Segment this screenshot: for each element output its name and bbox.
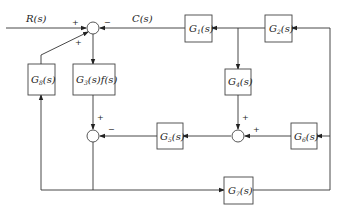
output-label: C(s) [132, 13, 153, 24]
sign-ll-top: + [97, 113, 104, 122]
right-loop-line [253, 28, 330, 190]
block-diagram: R(s) + − C(s) G1(s) G2(s) G4(s) + + G6(s… [0, 0, 347, 213]
block-g3f-label: G3(s)f(s) [76, 74, 117, 86]
block-g6-label: G6(s) [294, 131, 319, 143]
block-g5-label: G5(s) [160, 131, 185, 143]
summing-junction-top [87, 22, 99, 34]
block-g2-label: G2(s) [269, 23, 294, 35]
block-g4-label: G4(s) [228, 76, 253, 88]
block-g1-label: G1(s) [189, 23, 214, 35]
summing-junction-lower-left [87, 130, 99, 142]
summing-junction-lower-right [232, 130, 244, 142]
sign-lr-right: + [253, 125, 260, 134]
block-g7-label: G7(s) [228, 185, 253, 197]
sign-ll-right: − [108, 125, 115, 134]
sign-top-right: − [104, 18, 111, 27]
g8-to-junction-line [41, 32, 88, 64]
block-g8-label: G8(s) [31, 74, 56, 86]
sign-top-lower: + [75, 38, 82, 47]
sign-lr-top: + [242, 113, 249, 122]
input-label: R(s) [25, 13, 47, 24]
sign-top-left: + [72, 18, 79, 27]
